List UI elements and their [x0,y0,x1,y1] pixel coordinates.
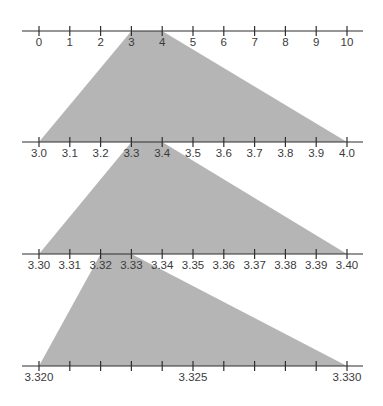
tick-label: 3.30 [28,259,50,271]
tick-label: 4 [159,36,166,48]
tick-label: 3.8 [277,147,293,159]
tick-label: 3.7 [247,147,263,159]
tick-label: 6 [221,36,227,48]
tick-label: 7 [251,36,257,48]
tick-label: 3.39 [305,259,327,271]
number-line-0: 012345678910 [22,26,363,48]
tick-label: 1 [67,36,73,48]
tick-label: 3.31 [59,259,81,271]
tick-label: 3 [128,36,134,48]
tick-label: 3.5 [185,147,201,159]
tick-label: 9 [313,36,319,48]
tick-label: 3.0 [31,147,47,159]
tick-label: 3.38 [274,259,296,271]
tick-label: 3.9 [308,147,324,159]
tick-label: 3.1 [62,147,78,159]
tick-label: 5 [190,36,196,48]
tick-label: 4.0 [339,147,355,159]
tick-label: 3.4 [154,147,171,159]
tick-label: 3.40 [336,259,358,271]
tick-label: 3.320 [25,371,54,383]
tick-label: 3.35 [182,259,204,271]
tick-label: 10 [341,36,354,48]
tick-label: 3.6 [216,147,232,159]
tick-label: 3.33 [120,259,142,271]
tick-label: 3.325 [179,371,208,383]
tick-label: 0 [36,36,42,48]
tick-label: 3.330 [333,371,362,383]
zoom-regions [39,31,347,366]
tick-label: 3.3 [123,147,139,159]
tick-label: 3.36 [213,259,235,271]
tick-label: 2 [97,36,103,48]
tick-label: 8 [282,36,288,48]
tick-label: 3.37 [243,259,265,271]
tick-label: 3.2 [93,147,109,159]
tick-label: 3.32 [89,259,111,271]
tick-label: 3.34 [151,259,174,271]
number-line-zoom-diagram: 0123456789103.03.13.23.33.43.53.63.73.83… [0,0,383,406]
